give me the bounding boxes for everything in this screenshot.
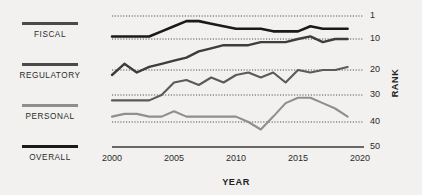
y-axis-title: RANK xyxy=(390,69,400,98)
x-tick-label: 2000 xyxy=(102,153,122,163)
x-tick-label: 2010 xyxy=(226,153,246,163)
chart-root: FISCAL REGULATORY PERSONAL OVERALL 11020… xyxy=(0,0,422,195)
series-line-overall xyxy=(112,21,348,36)
y-tick-label: 10 xyxy=(370,33,380,43)
y-tick-label: 20 xyxy=(370,64,380,74)
legend-swatch-regulatory xyxy=(22,63,78,66)
series-line-personal xyxy=(112,98,348,130)
y-tick-label: 30 xyxy=(370,89,380,99)
legend-item-fiscal[interactable]: FISCAL xyxy=(0,22,100,39)
chart-legend: FISCAL REGULATORY PERSONAL OVERALL xyxy=(0,0,100,195)
legend-swatch-personal xyxy=(22,104,78,107)
legend-label-regulatory: REGULATORY xyxy=(0,71,100,80)
y-tick-label: 40 xyxy=(370,116,380,126)
plot-area xyxy=(104,0,366,195)
legend-label-fiscal: FISCAL xyxy=(0,30,100,39)
legend-swatch-overall xyxy=(22,145,78,148)
x-tick-label: 2005 xyxy=(164,153,184,163)
x-tick-label: 2015 xyxy=(288,153,308,163)
legend-label-overall: OVERALL xyxy=(0,153,100,162)
x-axis-title: YEAR xyxy=(222,177,250,187)
legend-swatch-fiscal xyxy=(22,22,78,25)
chart-canvas xyxy=(104,0,366,195)
legend-item-overall[interactable]: OVERALL xyxy=(0,145,100,162)
y-tick-label: 50 xyxy=(370,141,380,151)
legend-label-personal: PERSONAL xyxy=(0,112,100,121)
y-tick-label: 1 xyxy=(370,10,375,20)
legend-item-regulatory[interactable]: REGULATORY xyxy=(0,63,100,80)
series-line-fiscal xyxy=(112,36,348,75)
x-tick-label: 2020 xyxy=(350,153,370,163)
legend-item-personal[interactable]: PERSONAL xyxy=(0,104,100,121)
